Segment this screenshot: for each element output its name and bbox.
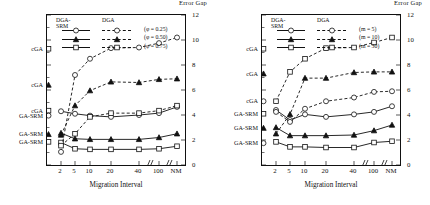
x-axis-tick: 100 [153,167,163,174]
axis-title-error-gap-m: Error Gap [394,0,422,6]
y-axis-left-labels-m: cGAcGAcGAGA-SRMGA-SRMGA-SRM [215,14,260,166]
legend-entry-label: (φ = 0.75) [144,44,168,50]
y-axis-left-label: cGA [246,69,258,76]
y-axis-left-label: cGA [31,81,43,88]
x-axis-tick: 100 [368,167,378,174]
y-axis-right-tick: 12 [192,11,199,18]
x-axis-title-phi: Migration Interval [46,181,186,189]
y-axis-left-label: GA-SRM [19,111,43,118]
x-axis-tick: 5 [287,167,290,174]
axis-title-error-gap: Error Gap [179,0,207,6]
y-axis-left-label: cGA [246,44,258,51]
y-axis-right-tick: 8 [192,61,195,68]
x-axis-tick: 20 [107,167,114,174]
y-axis-right-tick: 0 [192,161,195,168]
figure-two-panel-error-gap: Error Gap cGAcGAcGAGA-SRMGA-SRMGA-SRM 02… [0,0,430,205]
x-axis-tick: 40 [350,167,357,174]
y-axis-left-label: cGA [31,44,43,51]
x-axis-title-m: Migration Interval [261,181,401,189]
y-axis-right-tick: 2 [192,136,195,143]
y-axis-left-label: GA-SRM [234,124,258,131]
x-axis-tick: 20 [322,167,329,174]
x-axis-tick: 2 [58,167,61,174]
x-axis-ticks-m: 25102040100NM [261,167,401,181]
y-axis-right-tick: 0 [407,161,410,168]
x-axis-tick: 10 [86,167,93,174]
y-axis-right-ticks-phi: 024681012 [188,14,214,166]
y-axis-right-ticks-m: 024681012 [403,14,429,166]
y-axis-right-tick: 6 [407,86,410,93]
legend-header-dashed-m: DGA [317,18,330,24]
x-axis-tick: NM [171,167,182,174]
legend-entry-label: (φ = 0.25) [144,27,168,33]
x-axis-tick: 5 [72,167,75,174]
legend-sample [56,43,140,52]
x-axis-tick: NM [386,167,397,174]
legend-entry-label: (φ = 0.50) [144,35,168,41]
y-axis-left-labels-phi: cGAcGAcGAGA-SRMGA-SRMGA-SRM [0,14,45,166]
legend-sample [271,43,355,52]
y-axis-right-tick: 4 [407,111,410,118]
y-axis-right-tick: 8 [407,61,410,68]
y-axis-right-tick: 10 [407,36,414,43]
y-axis-right-tick: 4 [192,111,195,118]
x-axis-tick: 10 [301,167,308,174]
x-axis-tick: 2 [273,167,276,174]
y-axis-right-tick: 2 [407,136,410,143]
legend-entry-label: (m = 30) [359,44,379,50]
y-axis-left-label: GA-SRM [19,130,43,137]
legend-entry-label: (m = 5) [359,27,376,33]
y-axis-left-label: GA-SRM [234,109,258,116]
y-axis-left-label: GA-SRM [234,139,258,146]
y-axis-right-tick: 10 [192,36,199,43]
y-axis-left-label: cGA [246,97,258,104]
legend-header-dashed-phi: DGA [102,18,115,24]
y-axis-right-tick: 12 [407,11,414,18]
legend-entry-label: (m = 10) [359,35,379,41]
panel-phi: Error Gap cGAcGAcGAGA-SRMGA-SRMGA-SRM 02… [0,0,215,205]
y-axis-left-label: GA-SRM [19,137,43,144]
y-axis-right-tick: 6 [192,86,195,93]
panel-m: Error Gap cGAcGAcGAGA-SRMGA-SRMGA-SRM 02… [215,0,430,205]
x-axis-ticks-phi: 25102040100NM [46,167,186,181]
x-axis-tick: 40 [135,167,142,174]
